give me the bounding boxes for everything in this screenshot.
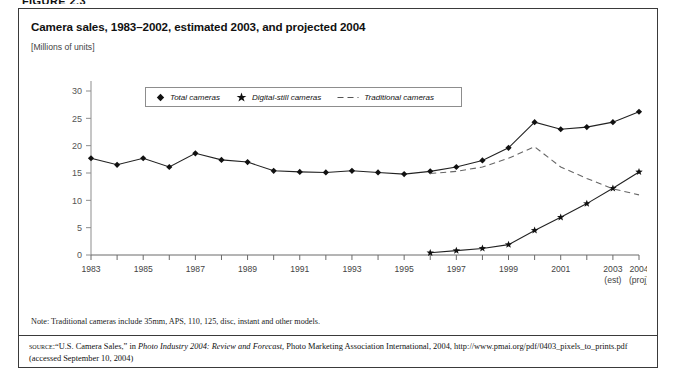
data-point-marker (166, 164, 172, 170)
legend-label-total-cameras: Total cameras (170, 93, 220, 102)
x-axis-tick-label: 1985 (134, 264, 153, 274)
legend-item-traditional-cameras: Traditional cameras (337, 93, 434, 102)
x-axis-tick-label: 1997 (447, 264, 466, 274)
x-axis-tick-label: 1987 (186, 264, 205, 274)
x-axis-tick-label: 1989 (238, 264, 257, 274)
legend-label-traditional-cameras: Traditional cameras (364, 93, 434, 102)
data-point-marker (323, 169, 329, 175)
x-axis-tick-label: 2003 (603, 264, 622, 274)
source-title-italic: Photo Industry 2004: Review and Forecast… (138, 342, 284, 351)
legend-item-total-cameras: Total cameras (156, 93, 220, 102)
page-title: Camera sales, 1983–2002, estimated 2003,… (31, 20, 365, 33)
y-axis-tick-label: 5 (77, 223, 82, 233)
series-line-total-cameras (91, 112, 639, 174)
data-point-marker (453, 247, 460, 254)
source-label: source: (29, 342, 55, 351)
x-axis-tick-label: 2001 (551, 264, 570, 274)
data-point-marker (636, 109, 642, 115)
data-point-marker (88, 155, 94, 161)
chart-note: Note: Traditional cameras include 35mm, … (31, 317, 320, 326)
series-line-digital-still-cameras (430, 172, 639, 253)
x-axis-tick-label: 1999 (499, 264, 518, 274)
data-point-marker (479, 157, 485, 163)
data-point-marker (375, 169, 381, 175)
x-axis-tick-sublabel: (proj) (629, 275, 647, 285)
y-axis-tick-label: 15 (72, 168, 82, 178)
legend-item-digital-still-cameras: Digital-still cameras (236, 92, 321, 103)
x-axis-tick-label: 1991 (290, 264, 309, 274)
x-axis-tick-label: 1995 (395, 264, 414, 274)
x-axis-tick-label: 1983 (81, 264, 100, 274)
y-axis-tick-label: 30 (72, 86, 82, 96)
figure-caption: FIGURE 2.3 (22, 0, 86, 4)
diamond-marker-icon (156, 93, 165, 102)
data-point-marker (558, 126, 564, 132)
data-point-marker (584, 124, 590, 130)
data-point-marker (453, 164, 459, 170)
data-point-marker (479, 245, 486, 252)
data-point-marker (583, 200, 590, 207)
data-point-marker (297, 169, 303, 175)
data-point-marker (557, 213, 564, 220)
star-marker-icon (236, 92, 247, 103)
data-point-marker (140, 155, 146, 161)
dashed-line-marker-icon (337, 93, 359, 102)
data-point-marker (192, 150, 198, 156)
source-citation: source:“U.S. Camera Sales,” in Photo Ind… (29, 341, 649, 366)
x-axis-tick-label: 1993 (342, 264, 361, 274)
y-axis-tick-label: 10 (72, 196, 82, 206)
data-point-marker (349, 168, 355, 174)
data-point-marker (244, 159, 250, 165)
y-axis-tick-label: 25 (72, 114, 82, 124)
figure-frame: Camera sales, 1983–2002, estimated 2003,… (18, 8, 658, 368)
data-point-marker (271, 168, 277, 174)
source-text-1: “U.S. Camera Sales,” in (55, 342, 138, 351)
data-point-marker (114, 162, 120, 168)
data-point-marker (505, 241, 512, 248)
section-divider (19, 335, 657, 336)
x-axis-tick-label: 2004 (629, 264, 647, 274)
data-point-marker (218, 157, 224, 163)
chart-legend: Total cameras Digital-still cameras Trad… (145, 87, 462, 107)
series-line-traditional-cameras (430, 147, 639, 195)
data-point-marker (610, 119, 616, 125)
x-axis-tick-sublabel: (est) (604, 275, 621, 285)
legend-label-digital-still-cameras: Digital-still cameras (252, 93, 321, 102)
data-point-marker (531, 227, 538, 234)
figure-page: FIGURE 2.3 Camera sales, 1983–2002, esti… (0, 0, 678, 376)
units-subtitle: [Millions of units] (31, 42, 95, 52)
data-point-marker (401, 171, 407, 177)
y-axis-tick-label: 0 (77, 250, 82, 260)
y-axis-tick-label: 20 (72, 141, 82, 151)
